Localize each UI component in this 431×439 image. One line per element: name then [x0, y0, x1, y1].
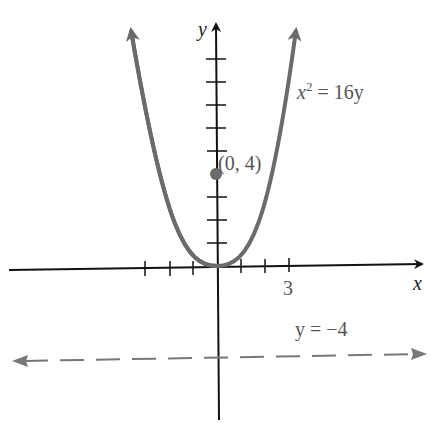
directrix-line	[24, 354, 421, 361]
x-tick-label-3: 3	[283, 277, 293, 299]
parabola-diagram: y x 3 (0, 4) x2 = 16y y = −4	[0, 0, 431, 439]
equation-label: x2 = 16y	[296, 79, 364, 104]
directrix-label: y = −4	[295, 318, 348, 341]
x-axis-label: x	[412, 272, 422, 294]
y-axis-label: y	[196, 18, 207, 41]
parabola-curve	[131, 30, 296, 266]
focus-label: (0, 4)	[218, 152, 261, 175]
y-axis	[216, 24, 219, 420]
